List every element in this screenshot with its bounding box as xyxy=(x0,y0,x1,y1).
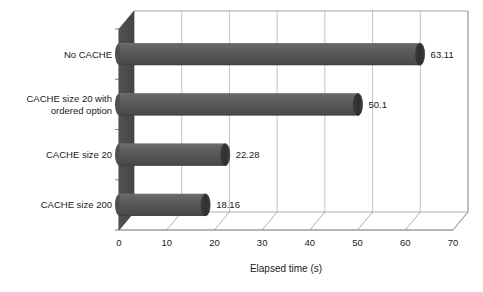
bar-end-cap xyxy=(416,43,425,65)
chart-canvas: 63.1150.122.2818.16 No CACHECACHE size 2… xyxy=(0,0,483,292)
bar-body xyxy=(119,144,225,166)
bar-end-cap xyxy=(201,194,210,216)
bar-end-cap xyxy=(354,93,363,115)
x-tick-label: 40 xyxy=(305,237,316,248)
x-tick-label: 30 xyxy=(257,237,268,248)
category-label: No CACHE xyxy=(64,49,112,60)
bar-body xyxy=(119,43,420,65)
bar-value-label: 18.16 xyxy=(216,199,240,210)
bar-body xyxy=(119,93,358,115)
x-tick-label: 70 xyxy=(448,237,459,248)
bar-value-label: 50.1 xyxy=(369,99,388,110)
bar xyxy=(115,93,363,115)
x-axis-title: Elapsed time (s) xyxy=(250,263,322,274)
category-label: CACHE size 20 xyxy=(46,149,112,160)
bar-end-cap xyxy=(221,144,230,166)
x-tick-label: 60 xyxy=(400,237,411,248)
bar-body xyxy=(119,194,206,216)
bar-chart: 63.1150.122.2818.16 No CACHECACHE size 2… xyxy=(0,0,483,292)
x-tick-label: 10 xyxy=(161,237,172,248)
x-tick-label: 20 xyxy=(209,237,220,248)
bar xyxy=(115,194,210,216)
x-tick-label: 50 xyxy=(352,237,363,248)
bar xyxy=(115,144,230,166)
bar-value-label: 22.28 xyxy=(236,149,260,160)
bar xyxy=(115,43,425,65)
bar-value-label: 63.11 xyxy=(431,49,454,60)
category-label: CACHE size 200 xyxy=(41,199,112,210)
x-tick-label: 0 xyxy=(116,237,121,248)
